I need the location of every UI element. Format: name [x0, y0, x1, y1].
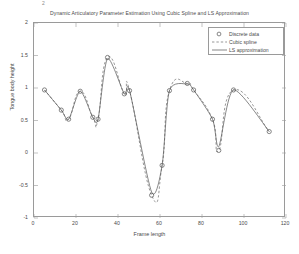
- cubic-spline-curve: [45, 57, 270, 203]
- x-tick-label: 0: [23, 220, 43, 226]
- x-tick-label: 80: [191, 220, 211, 226]
- ls-approximation-curve: [45, 59, 270, 195]
- legend: Discrete data Cubic spline LS approximat…: [208, 27, 284, 55]
- legend-item-discrete-data: Discrete data: [209, 30, 283, 38]
- figure-canvas: 2 Dynamic Articulatory Parameter Estimat…: [0, 0, 299, 254]
- chart-title: Dynamic Articulatory Parameter Estimatio…: [0, 10, 299, 16]
- y-tick-label: 1: [2, 84, 28, 90]
- legend-label-ls-approximation: LS approximation: [229, 47, 269, 53]
- dashed-line-icon: [211, 38, 228, 46]
- y-tick-label: 0.5: [2, 117, 28, 123]
- legend-item-ls-approximation: LS approximation: [209, 46, 283, 54]
- corner-mark: 2: [42, 0, 45, 6]
- y-tick-label: 1.5: [2, 52, 28, 58]
- y-axis-label: Tongue body height: [9, 42, 15, 132]
- x-tick-label: 20: [65, 220, 85, 226]
- legend-label-cubic-spline: Cubic spline: [229, 39, 257, 45]
- x-axis-label: Frame length: [0, 231, 299, 237]
- y-tick-label: 2: [2, 19, 28, 25]
- data-point-marker: [217, 148, 221, 152]
- x-tick-label: 120: [275, 220, 295, 226]
- discrete-data-markers: [42, 55, 271, 197]
- solid-line-icon: [211, 46, 228, 54]
- x-tick-label: 60: [149, 220, 169, 226]
- y-tick-label: 0: [2, 149, 28, 155]
- y-tick-label: -0.5: [2, 182, 28, 188]
- x-tick-label: 100: [233, 220, 253, 226]
- circle-marker-icon: [211, 30, 228, 38]
- legend-item-cubic-spline: Cubic spline: [209, 38, 283, 46]
- data-point-marker: [150, 193, 154, 197]
- x-tick-label: 40: [107, 220, 127, 226]
- legend-label-discrete-data: Discrete data: [229, 31, 259, 37]
